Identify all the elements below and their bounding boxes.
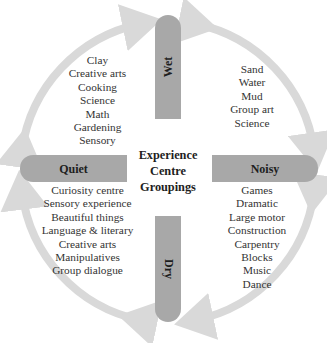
- list-item: Science: [45, 94, 150, 107]
- list-item: Creative arts: [30, 238, 145, 251]
- list-item: Large motor: [207, 211, 307, 224]
- list-item: Group dialogue: [30, 264, 145, 277]
- list-item: Blocks: [207, 251, 307, 264]
- quadrant-wet-noisy-list: Sand Water Mud Group art Science: [202, 63, 302, 130]
- list-item: Cooking: [45, 81, 150, 94]
- list-item: Beautiful things: [30, 211, 145, 224]
- list-item: Curiosity centre: [30, 184, 145, 197]
- list-item: Sand: [202, 63, 302, 76]
- axis-label-dry: Dry: [161, 259, 176, 279]
- list-item: Group art: [202, 103, 302, 116]
- axis-bar-quiet: Quiet: [20, 155, 127, 182]
- list-item: Clay: [45, 54, 150, 67]
- list-item: Math: [45, 108, 150, 121]
- list-item: Carpentry: [207, 238, 307, 251]
- list-item: Sensory: [45, 134, 150, 147]
- list-item: Gardening: [45, 121, 150, 134]
- axis-label-wet: Wet: [161, 57, 176, 78]
- list-item: Games: [207, 184, 307, 197]
- list-item: Creative arts: [45, 67, 150, 80]
- axis-bar-dry: Dry: [155, 216, 181, 322]
- list-item: Science: [202, 117, 302, 130]
- list-item: Sensory experience: [30, 197, 145, 210]
- axis-label-quiet: Quiet: [20, 161, 127, 176]
- list-item: Mud: [202, 90, 302, 103]
- list-item: Dance: [207, 278, 307, 291]
- quadrant-dry-quiet-list: Curiosity centre Sensory experience Beau…: [30, 184, 145, 278]
- axis-bar-noisy: Noisy: [212, 155, 318, 182]
- list-item: Construction: [207, 224, 307, 237]
- list-item: Manipulatives: [30, 251, 145, 264]
- list-item: Water: [202, 76, 302, 89]
- list-item: Language & literary: [30, 224, 145, 237]
- quadrant-wet-quiet-list: Clay Creative arts Cooking Science Math …: [45, 54, 150, 148]
- axis-label-noisy: Noisy: [212, 161, 318, 176]
- quadrant-dry-noisy-list: Games Dramatic Large motor Construction …: [207, 184, 307, 291]
- list-item: Music: [207, 264, 307, 277]
- list-item: Dramatic: [207, 197, 307, 210]
- axis-bar-wet: Wet: [155, 15, 181, 119]
